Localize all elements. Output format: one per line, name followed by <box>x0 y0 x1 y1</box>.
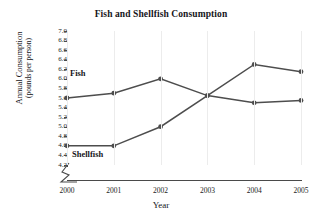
plot-area <box>67 31 301 165</box>
gridline-vertical <box>161 31 162 165</box>
gridline-vertical <box>114 31 115 165</box>
gridline-vertical <box>254 31 255 165</box>
gridline-vertical <box>301 31 302 165</box>
series-label-fish: Fish <box>70 68 86 78</box>
chart-figure: Fish and Shellfish Consumption Annual Co… <box>0 0 322 224</box>
y-axis-title: Annual Consumption (pounds per person) <box>14 0 34 138</box>
x-tick-label: 2004 <box>234 186 274 195</box>
series-line-fish <box>67 79 301 103</box>
chart-title: Fish and Shellfish Consumption <box>0 9 322 19</box>
x-axis-tick-labels: 200020012002200320042005 <box>67 186 302 198</box>
series-label-shellfish: Shellfish <box>72 149 103 159</box>
y-axis-title-line1: Annual Consumption <box>14 32 24 105</box>
series-line-shellfish <box>67 65 301 146</box>
gridline-vertical <box>67 31 68 165</box>
x-axis-title: Year <box>0 200 322 210</box>
x-tick-label: 2000 <box>47 186 87 195</box>
axis-break-icon <box>60 163 78 183</box>
x-axis-line <box>67 180 302 181</box>
y-axis-tick-labels: 7.06.86.66.46.26.05.85.65.45.25.04.84.64… <box>42 31 67 165</box>
series-lines <box>67 31 301 165</box>
x-tick-label: 2002 <box>141 186 181 195</box>
gridline-vertical <box>207 31 208 165</box>
x-tick-label: 2001 <box>94 186 134 195</box>
x-tick-label: 2003 <box>187 186 227 195</box>
x-tick-label: 2005 <box>281 186 321 195</box>
y-axis-title-line2: (pounds per person) <box>24 0 34 138</box>
